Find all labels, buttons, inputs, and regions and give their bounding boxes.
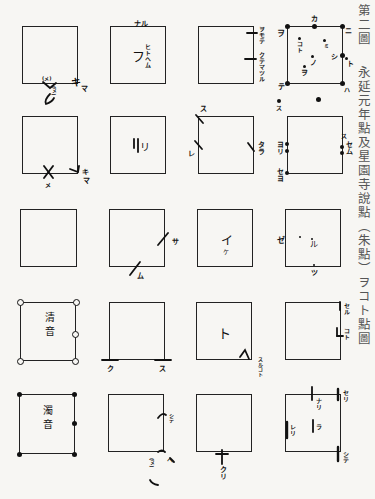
dot-mark	[303, 65, 306, 68]
circle-mark	[72, 358, 79, 365]
dot-mark	[316, 97, 321, 102]
label: ム	[137, 272, 144, 280]
label: ナル	[134, 20, 148, 28]
label: セム	[345, 141, 352, 155]
figure-number: 第二圖	[355, 4, 370, 46]
center-glyph: ル	[310, 238, 318, 249]
center-glyph: 清音	[42, 312, 54, 340]
label: ラ	[316, 423, 322, 431]
dot-mark	[313, 264, 315, 266]
dot-mark	[285, 24, 290, 29]
label: ミ	[322, 43, 329, 48]
label: ノ	[310, 59, 317, 67]
label: ヲモテ	[258, 26, 265, 44]
center-glyph: リ	[140, 139, 150, 154]
dot-mark	[72, 421, 77, 426]
label: セリ	[342, 390, 349, 402]
figure-title: 永延元年點及星園寺說點（朱點）ヲコト點圖	[355, 66, 370, 346]
label: ハ	[344, 86, 350, 94]
label: レリ	[289, 424, 296, 436]
label: ゼ	[277, 237, 285, 245]
label: セル	[343, 303, 350, 315]
label: ト	[347, 60, 354, 68]
dot-mark	[17, 452, 22, 457]
dot-mark	[72, 392, 77, 397]
dot-mark	[285, 149, 289, 153]
label: メ	[45, 181, 51, 189]
label: コト	[343, 328, 350, 340]
label: ク	[107, 365, 114, 373]
label: サ	[172, 238, 179, 246]
center-glyph: 濁音	[40, 405, 52, 433]
dot-mark	[323, 39, 326, 42]
label: テ	[278, 83, 285, 91]
figure-page: (メ) キ マ (ヌ) ナル フ ヒトヘム ヲモテ クテマツル カ ニ ヲ コト…	[0, 0, 375, 499]
label: シ	[331, 53, 338, 61]
label: ヲ	[277, 30, 285, 38]
label: ヒトヘム	[144, 44, 151, 68]
circle-mark	[17, 358, 24, 365]
center-glyph: イ	[221, 231, 233, 248]
dot-mark	[311, 55, 314, 58]
label: シテ	[342, 451, 349, 463]
dot-mark	[312, 24, 317, 29]
center-glyph-sub: ケ	[223, 247, 229, 256]
dot-mark	[285, 81, 290, 86]
dot-mark	[340, 151, 344, 155]
figure-caption: 第二圖 永延元年點及星園寺說點（朱點）ヲコト點圖	[355, 4, 369, 346]
circle-mark	[72, 331, 79, 338]
label: ヨリ	[276, 141, 283, 155]
label: ス	[200, 105, 207, 113]
label: マ	[81, 85, 88, 93]
dot-mark	[298, 37, 301, 40]
label: (ヌ)	[148, 458, 155, 468]
label: キ	[82, 168, 89, 176]
label: ヲ	[301, 69, 308, 77]
dot-mark	[285, 171, 289, 175]
label: キ	[71, 79, 81, 87]
label: シテ	[167, 413, 174, 423]
label: ス	[276, 104, 282, 112]
label: ス	[341, 132, 347, 140]
label: レ	[188, 150, 195, 158]
label: ニ	[345, 27, 352, 35]
center-glyph: ト	[218, 323, 231, 342]
label: ツ	[311, 269, 318, 277]
label: ナリ	[315, 398, 322, 410]
label: (メ)	[42, 74, 52, 82]
label: ス	[159, 365, 166, 373]
dot-mark	[340, 145, 344, 149]
label: マ	[83, 177, 90, 185]
label: クテマツル	[258, 52, 265, 82]
dot-mark	[285, 142, 289, 146]
dot-mark	[72, 452, 77, 457]
label: (ヌ)	[50, 86, 57, 96]
dot-mark	[277, 99, 281, 103]
circle-mark	[17, 299, 24, 306]
dot-mark	[299, 236, 301, 238]
label: クリ	[219, 466, 226, 480]
dot-mark	[17, 392, 22, 397]
label: セヨ	[276, 168, 283, 182]
circle-mark	[73, 299, 80, 306]
label: ヘ	[167, 456, 173, 464]
label: カ	[311, 15, 318, 23]
label: コト	[296, 41, 303, 53]
label: スルコト	[256, 357, 263, 377]
label: タラ	[257, 141, 264, 155]
